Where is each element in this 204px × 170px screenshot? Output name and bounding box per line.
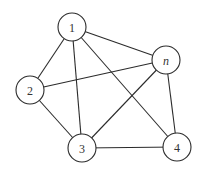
node-label: 2 <box>27 84 33 98</box>
node-label: 4 <box>174 141 180 155</box>
graph-edges <box>30 27 177 148</box>
node-3: 3 <box>68 134 96 162</box>
graph-diagram: 1n234 <box>0 0 204 170</box>
node-label: 3 <box>79 142 85 156</box>
node-n: n <box>152 46 180 74</box>
node-label: n <box>163 54 169 68</box>
graph-nodes: 1n234 <box>16 13 191 162</box>
edge-1-3 <box>72 27 82 148</box>
node-label: 1 <box>69 21 75 35</box>
node-4: 4 <box>163 133 191 161</box>
node-2: 2 <box>16 76 44 104</box>
node-1: 1 <box>58 13 86 41</box>
edge-2-n <box>30 60 166 90</box>
edge-3-n <box>82 60 166 148</box>
